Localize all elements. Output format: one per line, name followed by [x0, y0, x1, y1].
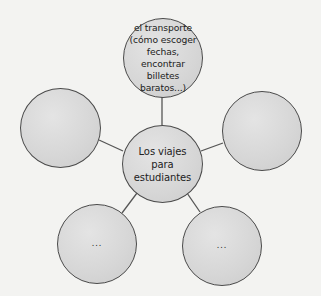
connector-right: [201, 143, 223, 151]
branch-node-right: [222, 91, 302, 171]
center-node: Los viajes para estudiantes: [122, 125, 203, 203]
center-label: Los viajes para estudiantes: [134, 145, 191, 184]
branch-label-bottom-right: ...: [217, 240, 228, 252]
branch-node-top: el transporte (cómo escoger fechas, enco…: [123, 18, 203, 98]
connector-bottom-right: [187, 193, 200, 212]
branch-label-top: el transporte (cómo escoger fechas, enco…: [124, 22, 202, 94]
branch-label-bottom-left: ...: [92, 238, 103, 250]
branch-node-left: [20, 88, 101, 168]
branch-node-bottom-right: ...: [182, 206, 262, 286]
branch-node-bottom-left: ...: [57, 204, 137, 284]
connector-bottom-left: [122, 193, 137, 213]
connector-left: [99, 140, 123, 151]
